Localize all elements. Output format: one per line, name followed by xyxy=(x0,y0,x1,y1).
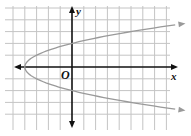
grid-lines xyxy=(5,6,170,130)
x-axis-label: x xyxy=(170,70,177,82)
x-axis-left-arrow-icon xyxy=(14,64,21,70)
coordinate-graph: y x O xyxy=(0,0,191,136)
y-axis-down-arrow-icon xyxy=(69,121,75,128)
curve-arrow-icon xyxy=(178,21,185,27)
y-axis-label: y xyxy=(74,5,81,17)
origin-label: O xyxy=(61,68,70,82)
y-axis-up-arrow-icon xyxy=(69,6,75,13)
curve-arrow-icon xyxy=(178,107,185,113)
